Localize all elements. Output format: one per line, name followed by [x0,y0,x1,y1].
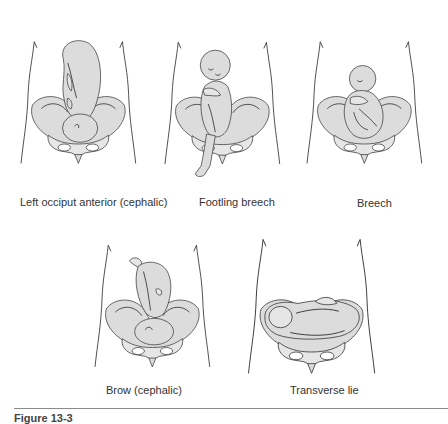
loa-illustration [6,14,156,184]
label-breech: Breech [357,197,392,209]
panel-brow-cephalic [80,220,230,385]
breech-illustration [292,14,442,184]
panel-left-occiput-anterior [6,14,156,184]
caption-divider [14,408,448,409]
label-left-occiput-anterior: Left occiput anterior (cephalic) [20,196,167,208]
transverse-illustration [232,220,397,385]
figure-caption: Figure 13-3 [14,412,73,424]
label-footling-breech: Footling breech [199,196,275,208]
panel-footling-breech [150,14,300,194]
brow-illustration [80,220,230,385]
label-brow-cephalic: Brow (cephalic) [106,384,182,396]
panel-transverse-lie [232,220,397,385]
panel-breech [292,14,442,184]
footling-breech-illustration [150,14,300,194]
label-transverse-lie: Transverse lie [290,384,359,396]
